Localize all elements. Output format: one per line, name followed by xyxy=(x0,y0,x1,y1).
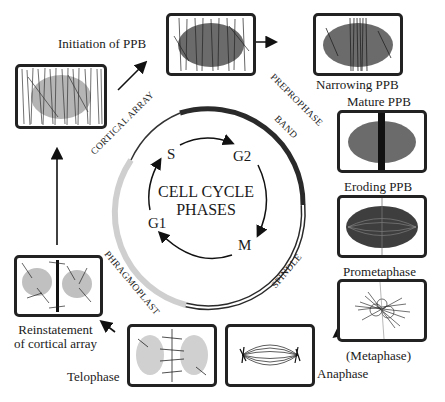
label-telophase: Telophase xyxy=(67,370,120,384)
cortical-array-image xyxy=(18,67,104,126)
phase-g2: G2 xyxy=(233,148,251,165)
center-line-1: CELL CYCLE xyxy=(150,183,262,201)
eroding-ppb-image xyxy=(340,198,424,255)
panel-anaphase xyxy=(225,324,315,387)
center-line-2: PHASES xyxy=(150,201,262,219)
label-metaphase: (Metaphase) xyxy=(346,349,411,363)
phase-g1: G1 xyxy=(148,215,166,232)
phase-s: S xyxy=(167,146,175,163)
panel-initiation-ppb xyxy=(166,13,256,76)
panel-prometaphase xyxy=(337,279,427,342)
label-eroding-ppb: Eroding PPB xyxy=(344,180,412,194)
anaphase-image xyxy=(228,327,312,384)
label-prometaphase: Prometaphase xyxy=(343,265,416,279)
label-mature-ppb: Mature PPB xyxy=(347,95,411,109)
panel-mature-ppb xyxy=(337,110,427,173)
label-anaphase: Anaphase xyxy=(317,367,368,381)
label-reinstatement: Reinstatement of cortical array xyxy=(14,323,97,350)
label-narrowing-ppb: Narrowing PPB xyxy=(316,78,399,92)
label-reinstatement-line1: Reinstatement xyxy=(14,323,97,337)
label-reinstatement-line2: of cortical array xyxy=(14,337,97,351)
reinstatement-image xyxy=(17,258,100,314)
panel-eroding-ppb xyxy=(337,195,427,258)
panel-narrowing-ppb xyxy=(313,13,403,76)
panel-telophase xyxy=(127,324,217,387)
phase-m: M xyxy=(238,237,251,254)
center-title: CELL CYCLE PHASES xyxy=(150,183,262,220)
panel-cortical-array xyxy=(15,64,107,129)
narrowing-ppb-image xyxy=(316,16,400,73)
mature-ppb-image xyxy=(340,113,424,170)
prometaphase-image xyxy=(340,282,424,339)
initiation-ppb-image xyxy=(169,16,253,73)
telophase-image xyxy=(130,327,214,384)
panel-reinstatement xyxy=(14,255,103,317)
label-initiation-ppb: Initiation of PPB xyxy=(58,37,146,51)
